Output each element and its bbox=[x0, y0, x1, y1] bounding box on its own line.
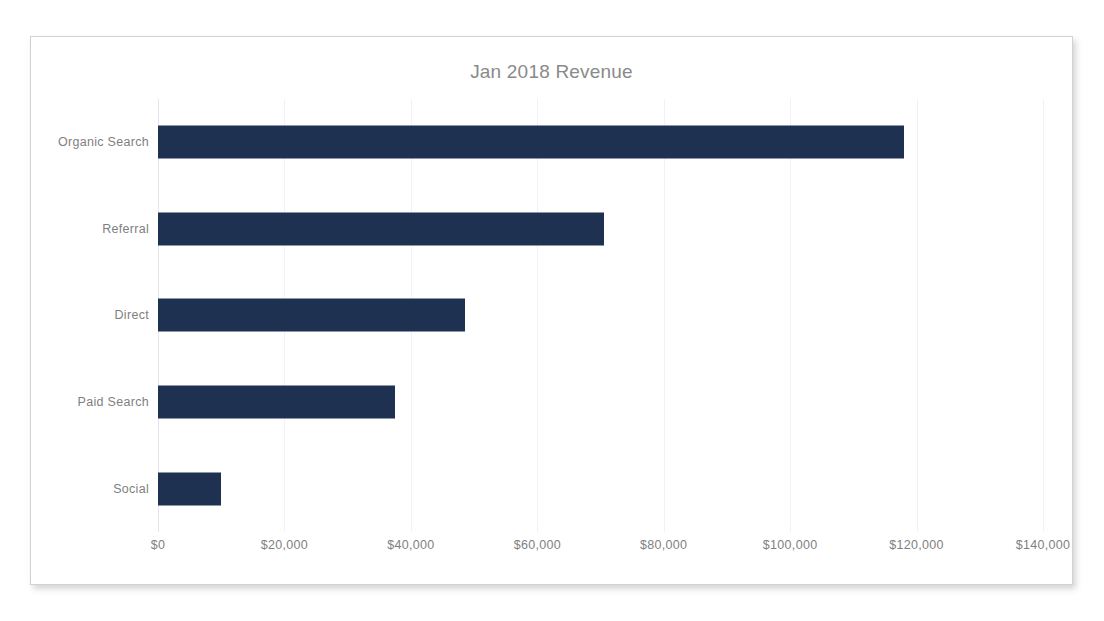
x-tick-label: $60,000 bbox=[514, 538, 561, 552]
category-label: Direct bbox=[115, 308, 149, 322]
x-tick-label: $20,000 bbox=[261, 538, 308, 552]
chart-frame[interactable]: Jan 2018 Revenue Organic SearchReferralD… bbox=[30, 36, 1073, 585]
x-axis-tick-labels: $0$20,000$40,000$60,000$80,000$100,000$1… bbox=[158, 538, 1043, 568]
bar-referral[interactable] bbox=[158, 212, 604, 245]
x-tick-label: $0 bbox=[151, 538, 166, 552]
x-tick-label: $80,000 bbox=[640, 538, 687, 552]
bar-row: Social bbox=[158, 445, 1043, 532]
category-label: Organic Search bbox=[58, 135, 149, 149]
bar-row: Organic Search bbox=[158, 99, 1043, 186]
bar-row: Direct bbox=[158, 272, 1043, 359]
category-label: Social bbox=[113, 482, 149, 496]
bar-social[interactable] bbox=[158, 472, 221, 505]
category-label: Paid Search bbox=[78, 395, 149, 409]
chart-title: Jan 2018 Revenue bbox=[31, 61, 1072, 83]
gridline bbox=[1043, 99, 1044, 532]
x-tick-label: $140,000 bbox=[1016, 538, 1071, 552]
category-label: Referral bbox=[102, 222, 149, 236]
bar-row: Paid Search bbox=[158, 359, 1043, 446]
bar-direct[interactable] bbox=[158, 299, 465, 332]
x-tick-label: $100,000 bbox=[763, 538, 818, 552]
bar-organic-search[interactable] bbox=[158, 126, 904, 159]
x-tick-label: $40,000 bbox=[387, 538, 434, 552]
plot-area: Organic SearchReferralDirectPaid SearchS… bbox=[158, 99, 1043, 532]
x-tick-label: $120,000 bbox=[889, 538, 944, 552]
bar-paid-search[interactable] bbox=[158, 386, 395, 419]
bar-row: Referral bbox=[158, 186, 1043, 273]
